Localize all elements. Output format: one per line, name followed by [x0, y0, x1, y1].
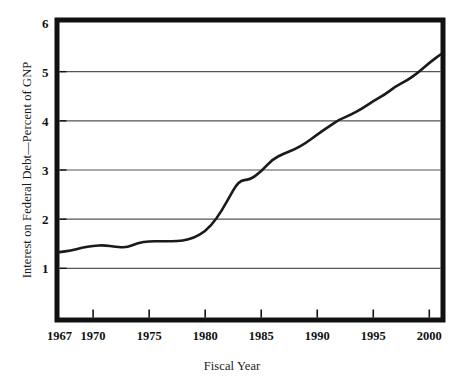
x-tick-label-1967: 1967	[47, 329, 72, 343]
y-tick-label-4: 4	[42, 114, 49, 129]
y-tick-label-3: 3	[42, 163, 49, 178]
y-tick-label-1: 1	[42, 261, 49, 276]
x-tick-label-1970: 1970	[81, 329, 106, 343]
line-chart-canvas: 19671970197519801985199019952000 123456 …	[0, 0, 469, 388]
y-tick-label-2: 2	[42, 212, 49, 227]
y-axis-title: Interest on Federal Debt—Percent of GNP	[20, 62, 34, 279]
x-tick-label-2000: 2000	[417, 329, 442, 343]
x-tick-label-1995: 1995	[361, 329, 386, 343]
x-tick-label-1990: 1990	[305, 329, 330, 343]
y-tick-label-5: 5	[42, 65, 49, 80]
x-axis-title: Fiscal Year	[204, 359, 261, 373]
y-tick-label-6: 6	[42, 16, 49, 31]
x-tick-label-1975: 1975	[137, 329, 162, 343]
x-tick-label-1985: 1985	[249, 329, 274, 343]
x-tick-label-1980: 1980	[193, 329, 218, 343]
chart-figure: 19671970197519801985199019952000 123456 …	[0, 0, 469, 388]
